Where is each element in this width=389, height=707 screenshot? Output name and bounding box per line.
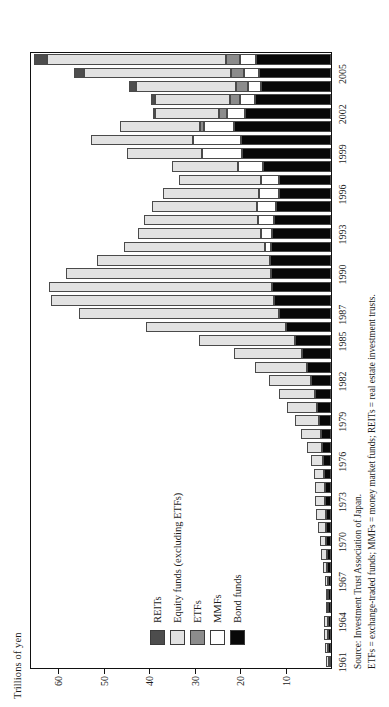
bar-1973 bbox=[315, 496, 331, 507]
value-axis-tick-label: 60 bbox=[53, 676, 64, 686]
bar-segment-equity-funds-excluding-etfs bbox=[144, 215, 258, 226]
bar-segment-etfs bbox=[230, 94, 240, 105]
bar-1977 bbox=[307, 442, 331, 453]
bar-segment-equity-funds-excluding-etfs bbox=[47, 54, 227, 65]
bar-segment-equity-funds-excluding-etfs bbox=[66, 268, 271, 279]
bar-segment-equity-funds-excluding-etfs bbox=[315, 482, 325, 493]
bar-segment-bond-funds bbox=[271, 242, 331, 253]
bar-segment-bond-funds bbox=[263, 161, 331, 172]
bar-1993 bbox=[138, 228, 331, 239]
bar-segment-bond-funds bbox=[256, 54, 331, 65]
bar-segment-equity-funds-excluding-etfs bbox=[120, 121, 200, 132]
bar-segment-equity-funds-excluding-etfs bbox=[155, 108, 219, 119]
bar-segment-equity-funds-excluding-etfs bbox=[79, 308, 279, 319]
value-axis-tick bbox=[149, 668, 150, 674]
bar-segment-bond-funds bbox=[279, 175, 331, 186]
bar-segment-bond-funds bbox=[242, 148, 331, 159]
chart-figure: Trillions of yen 102030405060 REITsEquit… bbox=[0, 0, 389, 707]
bar-segment-bond-funds bbox=[307, 362, 331, 373]
bar-segment-equity-funds-excluding-etfs bbox=[136, 81, 236, 92]
bar-segment-equity-funds-excluding-etfs bbox=[326, 603, 329, 614]
bar-segment-mmfs bbox=[227, 108, 244, 119]
bar-segment-equity-funds-excluding-etfs bbox=[325, 643, 328, 654]
legend-item-label: REITs bbox=[152, 596, 163, 623]
bar-segment-etfs bbox=[236, 81, 248, 92]
bar-segment-etfs bbox=[219, 108, 228, 119]
bar-1976 bbox=[311, 455, 331, 466]
legend-item-label: ETFs bbox=[192, 600, 203, 623]
bar-segment-equity-funds-excluding-etfs bbox=[311, 455, 324, 466]
bar-segment-bond-funds bbox=[321, 429, 331, 440]
category-axis-line bbox=[331, 52, 332, 669]
legend-item-label: Equity funds (excluding ETFs) bbox=[172, 493, 183, 623]
bar-1986 bbox=[146, 322, 331, 333]
value-axis-tick-label: 40 bbox=[144, 676, 155, 686]
bar-segment-bond-funds bbox=[274, 295, 331, 306]
bar-segment-equity-funds-excluding-etfs bbox=[301, 429, 321, 440]
legend-item: REITs bbox=[150, 493, 165, 645]
bar-segment-mmfs bbox=[248, 81, 262, 92]
legend-swatch-icon bbox=[210, 630, 225, 645]
bar-segment-mmfs bbox=[238, 161, 263, 172]
bar-segment-mmfs bbox=[265, 242, 270, 253]
bar-segment-mmfs bbox=[261, 228, 272, 239]
bar-2003 bbox=[151, 94, 331, 105]
source-note: Source: Investment Trust Association of … bbox=[352, 294, 366, 669]
bar-segment-bond-funds bbox=[271, 268, 331, 279]
category-axis-tick-label: 1961 bbox=[337, 652, 348, 672]
bar-1982 bbox=[269, 375, 331, 386]
bar-segment-equity-funds-excluding-etfs bbox=[179, 175, 261, 186]
value-axis-tick bbox=[58, 668, 59, 674]
bar-segment-bond-funds bbox=[234, 121, 331, 132]
category-axis-tick-label: 1979 bbox=[337, 412, 348, 432]
bar-1969 bbox=[321, 549, 331, 560]
bar-1964 bbox=[324, 616, 331, 627]
bar-segment-equity-funds-excluding-etfs bbox=[315, 496, 325, 507]
bar-segment-equity-funds-excluding-etfs bbox=[307, 442, 322, 453]
category-axis-tick-label: 1996 bbox=[337, 184, 348, 204]
bar-1997 bbox=[179, 175, 331, 186]
bar-segment-reits bbox=[74, 68, 84, 79]
bar-segment-equity-funds-excluding-etfs bbox=[97, 255, 270, 266]
bar-1968 bbox=[323, 562, 331, 573]
bar-segment-bond-funds bbox=[295, 335, 331, 346]
value-axis-tick-label: 20 bbox=[235, 676, 246, 686]
bar-segment-equity-funds-excluding-etfs bbox=[234, 348, 302, 359]
bar-segment-bond-funds bbox=[324, 469, 331, 480]
bar-segment-mmfs bbox=[240, 94, 255, 105]
legend-item-label: MMFs bbox=[212, 594, 223, 623]
bar-segment-equity-funds-excluding-etfs bbox=[326, 589, 329, 600]
bar-segment-bond-funds bbox=[255, 94, 331, 105]
bar-segment-etfs bbox=[200, 121, 205, 132]
category-axis-tick-label: 1970 bbox=[337, 532, 348, 552]
bar-2002 bbox=[154, 108, 331, 119]
bar-1975 bbox=[314, 469, 331, 480]
bar-segment-bond-funds bbox=[241, 135, 331, 146]
bar-1988 bbox=[51, 295, 331, 306]
bar-1989 bbox=[49, 282, 331, 293]
bar-1996 bbox=[163, 188, 331, 199]
bar-segment-mmfs bbox=[240, 54, 255, 65]
bar-segment-equity-funds-excluding-etfs bbox=[314, 469, 324, 480]
legend-swatch-icon bbox=[230, 630, 245, 645]
bar-segment-equity-funds-excluding-etfs bbox=[325, 576, 328, 587]
bar-1985 bbox=[199, 335, 331, 346]
bar-segment-equity-funds-excluding-etfs bbox=[295, 415, 319, 426]
value-axis-tick-label: 50 bbox=[98, 676, 109, 686]
bar-segment-reits bbox=[151, 94, 155, 105]
bar-2006 bbox=[34, 54, 331, 65]
bar-segment-equity-funds-excluding-etfs bbox=[155, 94, 230, 105]
bar-segment-bond-funds bbox=[323, 455, 331, 466]
bar-1992 bbox=[124, 242, 331, 253]
definitions-note: ETFs = exchange-traded funds; MMFs = mon… bbox=[366, 294, 380, 669]
bar-segment-mmfs bbox=[257, 201, 276, 212]
value-axis-tick-label: 10 bbox=[280, 676, 291, 686]
bar-segment-mmfs bbox=[258, 215, 274, 226]
bar-segment-bond-funds bbox=[319, 415, 331, 426]
bar-1991 bbox=[97, 255, 331, 266]
bar-segment-bond-funds bbox=[315, 389, 331, 400]
bar-segment-mmfs bbox=[259, 188, 279, 199]
bar-segment-equity-funds-excluding-etfs bbox=[163, 188, 258, 199]
bar-segment-bond-funds bbox=[270, 255, 331, 266]
bar-1984 bbox=[234, 348, 331, 359]
